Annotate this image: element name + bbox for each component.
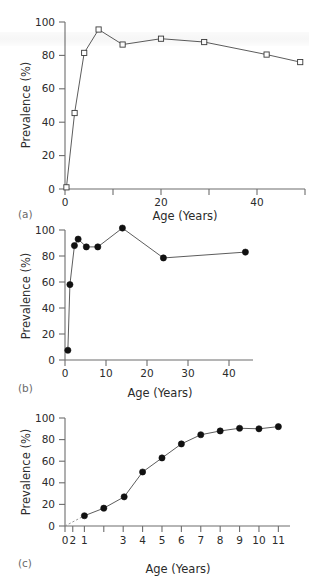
data-point-marker [298, 59, 303, 64]
panel-c-ytick-0: 0 [48, 520, 55, 532]
data-point-marker [65, 347, 71, 353]
panel-c-ytick-60: 60 [42, 455, 55, 467]
data-point-marker [275, 424, 281, 430]
data-point-marker [264, 52, 269, 57]
panel-c-xtick-label: 10 [252, 534, 265, 546]
data-point-marker [82, 50, 87, 55]
data-point-marker [75, 236, 81, 242]
panel-a: 0 20 40 60 80 100 0 20 40 Prevalence (%) [0, 0, 309, 210]
panel-a-ytick-80: 80 [42, 49, 55, 61]
panel-c-xtick-label: 7 [197, 534, 204, 546]
panel-c-x-ticks: 02134567891011 [62, 526, 285, 546]
data-point-marker [121, 494, 127, 500]
panel-c-xtick-label: 9 [236, 534, 243, 546]
panel-b-ytick-80: 80 [42, 250, 55, 262]
panel-b-ytick-60: 60 [42, 276, 55, 288]
panel-c-ytick-80: 80 [42, 433, 55, 445]
data-point-marker [217, 428, 223, 434]
panel-b-ytick-100: 100 [35, 224, 55, 236]
data-point-marker [96, 27, 101, 32]
panel-c-xtick-label: 4 [139, 534, 146, 546]
data-point-marker [139, 469, 145, 475]
panel-a-data-series [64, 27, 303, 190]
data-point-marker [101, 505, 107, 511]
panel-c-ytick-40: 40 [42, 476, 55, 488]
data-point-marker [83, 244, 89, 250]
data-point-marker [256, 426, 262, 432]
data-point-marker [242, 249, 248, 255]
panel-a-ytick-100: 100 [35, 16, 55, 28]
panel-c-ytick-20: 20 [42, 498, 55, 510]
data-point-marker [72, 110, 77, 115]
panel-c-xtick-label: 0 [62, 534, 69, 546]
data-point-marker [160, 255, 166, 261]
data-point-marker [202, 39, 207, 44]
panel-b-ytick-20: 20 [42, 328, 55, 340]
data-point-marker [178, 441, 184, 447]
figure-three-panel-prevalence: 0 20 40 60 80 100 0 20 40 Prevalence (%) [0, 0, 309, 580]
panel-b-labels: (b) [0, 378, 309, 398]
panel-c-xtick-label: 11 [272, 534, 285, 546]
panel-c-xtick-label: 6 [178, 534, 185, 546]
data-point-marker [159, 455, 165, 461]
panel-b-y-axis-title: Prevalence (%) [19, 253, 33, 340]
panel-b-ytick-40: 40 [42, 302, 55, 314]
panel-c-xtick-label: 2 [69, 534, 76, 546]
panel-b-data-series [65, 225, 249, 353]
data-point-marker [198, 432, 204, 438]
panel-a-ytick-40: 40 [42, 116, 55, 128]
panel-c-labels: (c) [0, 553, 309, 573]
panel-c-label: (c) [18, 557, 32, 569]
panel-b: 0 20 40 60 80 100 0 10 20 30 40 Prevalen… [0, 208, 309, 400]
data-point-marker [81, 513, 87, 519]
panel-a-plot: 0 20 40 60 80 100 0 20 40 Prevalence (%) [0, 0, 309, 210]
panel-c-xtick-label: 1 [81, 534, 88, 546]
panel-b-label: (b) [18, 382, 33, 394]
data-point-marker [67, 282, 73, 288]
data-point-marker [119, 225, 125, 231]
panel-c-ytick-100: 100 [35, 412, 55, 424]
panel-a-ytick-20: 20 [42, 149, 55, 161]
panel-c-xtick-label: 5 [159, 534, 166, 546]
data-point-marker [95, 244, 101, 250]
panel-b-ytick-0: 0 [48, 354, 55, 366]
data-point-marker [236, 425, 242, 431]
panel-c-data-series [65, 424, 281, 526]
data-point-marker [120, 42, 125, 47]
data-point-marker [158, 36, 163, 41]
panel-c-xtick-label: 8 [217, 534, 224, 546]
panel-c-xtick-label: 3 [120, 534, 127, 546]
panel-c-y-axis-title: Prevalence (%) [19, 429, 33, 516]
panel-a-y-axis-title: Prevalence (%) [19, 62, 33, 149]
panel-a-ytick-60: 60 [42, 82, 55, 94]
data-point-marker [71, 243, 77, 249]
panel-b-plot: 0 20 40 60 80 100 0 10 20 30 40 Prevalen… [0, 208, 309, 400]
